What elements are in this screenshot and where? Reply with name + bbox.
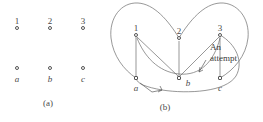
node-label-2a: 2 <box>44 17 56 26</box>
node-label-1a: 1 <box>11 17 23 26</box>
vertex-ba <box>48 66 52 70</box>
vertex-1a <box>15 26 19 30</box>
vertex-ab <box>134 76 138 80</box>
caption-a: (a) <box>33 99 63 108</box>
node-label-3a: 3 <box>77 17 89 26</box>
node-label-bb: b <box>182 79 194 88</box>
edge-1-b <box>137 37 178 76</box>
node-label-ba: b <box>44 75 56 84</box>
vertex-bb <box>177 76 181 80</box>
node-label-ab: a <box>130 84 142 93</box>
caption-b: (b) <box>150 103 180 112</box>
vertex-3a <box>81 26 85 30</box>
annotation-line-2: attempt <box>210 53 237 64</box>
vertex-cb <box>218 76 222 80</box>
annotation-line-1: An <box>210 42 237 53</box>
node-label-2b: 2 <box>173 27 185 36</box>
vertex-2a <box>48 26 52 30</box>
node-label-3b: 3 <box>214 24 226 33</box>
node-label-ca: c <box>77 75 89 84</box>
vertex-aa <box>15 66 19 70</box>
panel-b: 1 2 3 a b c An attempt (b) <box>110 0 263 122</box>
figure-root: 1 2 3 a b c (a) <box>0 0 263 122</box>
vertex-ca <box>81 66 85 70</box>
vertex-2b <box>177 36 181 40</box>
edge-1-c <box>137 38 220 74</box>
panel-a: 1 2 3 a b c (a) <box>0 0 110 122</box>
vertex-1b <box>134 33 138 37</box>
node-label-aa: a <box>11 75 23 84</box>
node-label-cb: c <box>214 84 226 93</box>
vertex-3b <box>218 33 222 37</box>
node-label-1b: 1 <box>130 24 142 33</box>
graph-edges-svg <box>110 0 263 122</box>
annotation-an-attempt: An attempt <box>210 42 237 65</box>
